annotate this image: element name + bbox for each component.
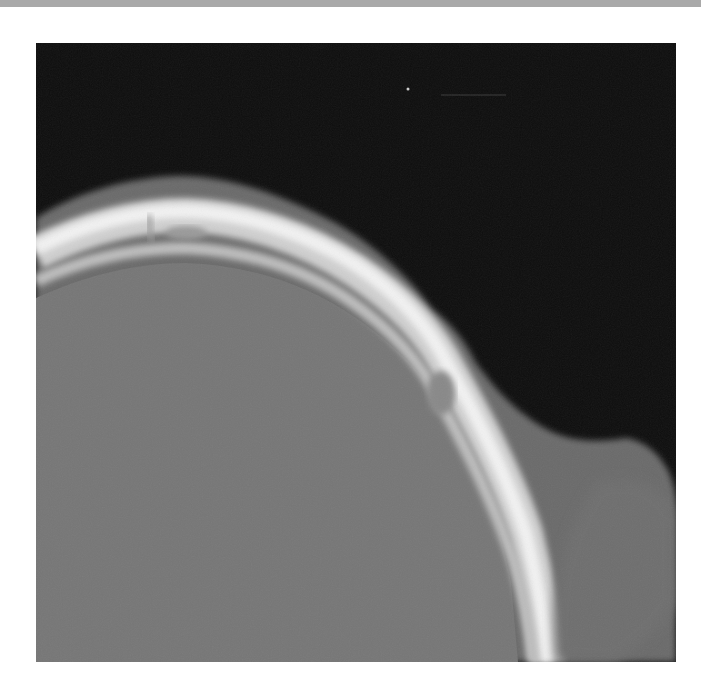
- top-bar: [0, 0, 701, 7]
- ct-scan-graphic: [36, 43, 676, 662]
- ct-scan-image: [36, 43, 676, 662]
